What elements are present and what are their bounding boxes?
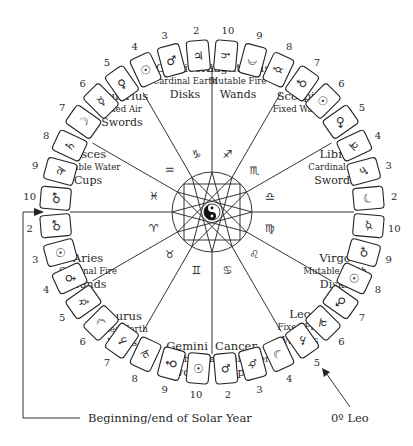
zodiac-glyph-capricorn: ♑ bbox=[192, 148, 202, 161]
card-number: 7 bbox=[104, 357, 110, 368]
tarot-card: ☽ bbox=[352, 186, 384, 211]
zodiac-glyph-leo: ♌ bbox=[249, 248, 259, 261]
card-number: 6 bbox=[79, 336, 85, 347]
card-number: 3 bbox=[32, 254, 38, 265]
card-number: 6 bbox=[338, 78, 344, 89]
tarot-card: ☉ bbox=[186, 352, 211, 384]
card-number: 10 bbox=[23, 191, 36, 202]
zodiac-tarot-wheel: ♑CapricornCardinal EarthDisks♒AquariusFi… bbox=[0, 0, 413, 446]
planet-glyph-icon: ♃ bbox=[193, 49, 205, 64]
solar-year-arrow-icon bbox=[34, 208, 44, 216]
solar-year-caption: Beginning/end of Solar Year bbox=[88, 411, 252, 425]
card-number: 3 bbox=[256, 384, 262, 395]
card-number: 9 bbox=[32, 160, 38, 171]
leo-arrow-line bbox=[326, 373, 350, 407]
card-number: 6 bbox=[79, 78, 85, 89]
tarot-card: ♀ bbox=[213, 352, 238, 384]
wheel-canvas: ♑CapricornCardinal EarthDisks♒AquariusFi… bbox=[0, 0, 413, 446]
card-number: 2 bbox=[391, 191, 397, 202]
tarot-card: ♀ bbox=[346, 238, 381, 267]
card-number: 10 bbox=[388, 223, 401, 234]
zodiac-glyph-taurus: ♉ bbox=[165, 248, 175, 261]
card-number: 8 bbox=[43, 130, 49, 141]
card-number: 9 bbox=[161, 384, 167, 395]
sign-quality: Cardinal Earth bbox=[153, 76, 218, 86]
card-number: 2 bbox=[225, 389, 231, 400]
card-number: 4 bbox=[43, 284, 49, 295]
yin-yang-icon bbox=[204, 204, 220, 220]
card-number: 8 bbox=[132, 373, 138, 384]
card-number: 9 bbox=[256, 30, 262, 41]
card-number: 9 bbox=[386, 254, 392, 265]
zodiac-glyph-sagittarius: ♐ bbox=[223, 148, 233, 161]
card-number: 8 bbox=[375, 284, 381, 295]
leo-arrow-icon bbox=[322, 368, 330, 377]
card-number: 2 bbox=[27, 223, 33, 234]
planet-glyph-icon: ☉ bbox=[348, 271, 360, 286]
card-number: 5 bbox=[359, 102, 365, 113]
planet-glyph-icon: ♀ bbox=[63, 274, 78, 284]
card-number: 4 bbox=[132, 41, 138, 52]
card-number: 10 bbox=[222, 25, 235, 36]
zodiac-glyph-gemini: ♊ bbox=[192, 264, 202, 277]
sign-suit: Cups bbox=[74, 174, 103, 187]
card-number: 2 bbox=[193, 25, 199, 36]
zodiac-glyph-virgo: ♍ bbox=[265, 222, 275, 235]
card-number: 5 bbox=[314, 357, 320, 368]
tarot-card: ♄ bbox=[213, 40, 238, 72]
card-number: 7 bbox=[59, 102, 65, 113]
zodiac-glyph-aquarius: ♒ bbox=[165, 164, 175, 177]
sign-suit: Swords bbox=[101, 116, 143, 129]
zodiac-glyph-scorpio: ♏ bbox=[249, 164, 259, 177]
card-number: 4 bbox=[375, 130, 381, 141]
sign-suit: Disks bbox=[170, 88, 201, 101]
planet-glyph-icon: ♄ bbox=[218, 50, 233, 62]
tarot-card: ♂ bbox=[40, 186, 72, 211]
tarot-card: ♂ bbox=[40, 213, 72, 238]
zodiac-glyph-aries: ♈ bbox=[149, 222, 159, 235]
card-number: 7 bbox=[359, 312, 365, 323]
zodiac-glyph-libra: ♎ bbox=[265, 190, 275, 203]
zodiac-glyph-cancer: ♋ bbox=[223, 264, 233, 277]
card-number: 8 bbox=[286, 41, 292, 52]
tarot-card: ☿ bbox=[352, 213, 384, 238]
card-number: 5 bbox=[104, 57, 110, 68]
sign-quality: Mutable Fire bbox=[210, 76, 267, 86]
card-number: 3 bbox=[161, 30, 167, 41]
card-number: 6 bbox=[338, 336, 344, 347]
card-number: 10 bbox=[190, 389, 203, 400]
zodiac-glyph-pisces: ♓ bbox=[149, 190, 159, 203]
card-number: 4 bbox=[286, 373, 292, 384]
card-number: 7 bbox=[314, 57, 320, 68]
central-star-figure bbox=[172, 172, 252, 252]
card-number: 5 bbox=[59, 312, 65, 323]
leo-caption: 0º Leo bbox=[331, 411, 369, 425]
planet-glyph-icon: ♂ bbox=[335, 294, 347, 309]
planet-glyph-icon: ☿ bbox=[77, 298, 91, 306]
tarot-card: ♃ bbox=[186, 40, 211, 72]
sign-suit: Wands bbox=[220, 88, 257, 101]
card-number: 3 bbox=[386, 160, 392, 171]
